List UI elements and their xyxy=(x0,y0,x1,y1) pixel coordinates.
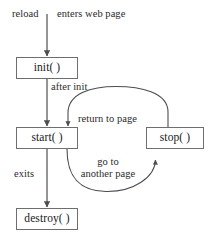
edge-label-after-init: after init xyxy=(51,81,87,93)
state-label-init: init( ) xyxy=(34,62,61,74)
state-label-start: start( ) xyxy=(31,132,62,144)
edge-label-go-to-line2: another page xyxy=(71,168,145,180)
state-label-destroy: destroy( ) xyxy=(24,213,69,225)
edge-label-reload: reload xyxy=(12,8,39,20)
edge-label-enters-web-page: enters web page xyxy=(57,8,125,20)
edge-label-return-to-page: return to page xyxy=(78,113,137,125)
state-box-start[interactable]: start( ) xyxy=(16,127,78,149)
state-label-stop: stop( ) xyxy=(160,132,190,144)
state-diagram: init( ) start( ) stop( ) destroy( ) relo… xyxy=(0,0,212,238)
state-box-destroy[interactable]: destroy( ) xyxy=(16,208,78,230)
edge-label-go-to-another-page: go to another page xyxy=(71,156,145,179)
edge-label-go-to-line1: go to xyxy=(71,156,145,168)
edge-label-exits: exits xyxy=(14,168,34,180)
state-box-stop[interactable]: stop( ) xyxy=(146,127,204,149)
state-box-init[interactable]: init( ) xyxy=(16,57,78,79)
